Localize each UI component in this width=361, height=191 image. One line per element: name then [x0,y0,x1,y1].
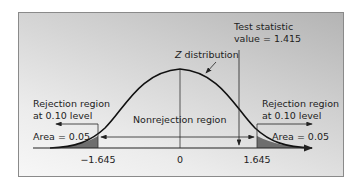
tick-zero: 0 [177,154,183,165]
right-area-label: Area = 0.05 [272,131,329,142]
right-reject-label-2: at 0.10 level [262,110,321,121]
tick-neg-critical: −1.645 [80,154,115,165]
right-reject-label-1: Rejection region [262,98,339,109]
z-distribution-diagram: Z distribution Test statistic value = 1.… [0,0,361,191]
test-stat-label-2: value = 1.415 [234,33,301,44]
test-stat-label-1: Test statistic [233,21,293,32]
curve-label: Z distribution [174,49,239,60]
nonrejection-label: Nonrejection region [133,114,226,125]
left-reject-label-1: Rejection region [33,98,110,109]
tick-pos-critical: 1.645 [243,154,270,165]
left-reject-label-2: at 0.10 level [33,110,92,121]
left-area-label: Area = 0.05 [33,131,90,142]
curve-pointer-arrow [206,62,216,73]
